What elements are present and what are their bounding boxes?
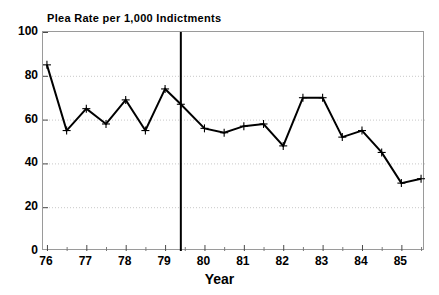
- chart-figure: Plea Rate per 1,000 Indictments 02040608…: [0, 0, 439, 295]
- x-axis-tick-label: 84: [341, 254, 381, 268]
- x-axis-tick-label: 80: [183, 254, 223, 268]
- x-axis-tick-labels: 76777879808182838485: [0, 0, 439, 295]
- x-axis-tick-label: 82: [262, 254, 302, 268]
- x-axis-tick-label: 76: [26, 254, 66, 268]
- x-axis-tick-label: 77: [65, 254, 105, 268]
- x-axis-tick-label: 81: [223, 254, 263, 268]
- x-axis-tick-label: 85: [380, 254, 420, 268]
- x-axis-title: Year: [0, 271, 439, 287]
- x-axis-tick-label: 83: [302, 254, 342, 268]
- x-axis-tick-label: 78: [105, 254, 145, 268]
- x-axis-tick-label: 79: [144, 254, 184, 268]
